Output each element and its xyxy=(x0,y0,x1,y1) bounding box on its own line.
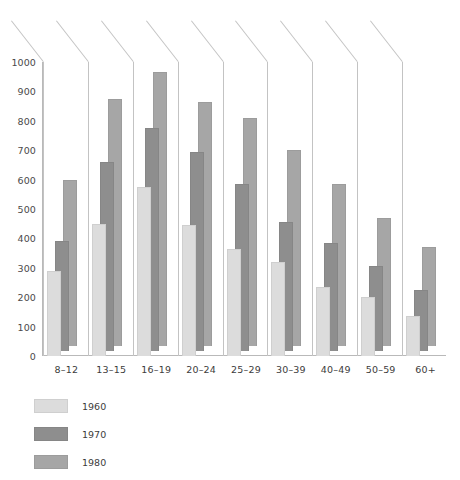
legend-swatch-1960 xyxy=(34,399,68,413)
bar-1960-13–15 xyxy=(92,224,106,356)
plot-area: 01002003004005006007008009001000 8–1213–… xyxy=(42,62,446,356)
x-tick-label: 13–15 xyxy=(96,364,126,375)
legend-swatch-1980 xyxy=(34,455,68,469)
bar-group xyxy=(401,62,446,356)
y-tick-label: 0 xyxy=(30,351,36,362)
bar-1960-30–39 xyxy=(271,262,285,356)
bar-group xyxy=(356,62,401,356)
y-tick-label: 600 xyxy=(18,174,36,185)
x-tick-label: 8–12 xyxy=(55,364,79,375)
bar-1960-16–19 xyxy=(137,187,151,356)
y-tick-label: 800 xyxy=(18,115,36,126)
legend-item[interactable]: 1970 xyxy=(34,423,106,445)
legend-label: 1970 xyxy=(82,429,106,440)
bar-1960-25–29 xyxy=(227,249,241,356)
bar-group xyxy=(177,62,222,356)
legend-item[interactable]: 1980 xyxy=(34,451,106,473)
bar-group xyxy=(132,62,177,356)
bar-group xyxy=(42,62,87,356)
x-tick-label: 16–19 xyxy=(141,364,171,375)
y-tick-label: 100 xyxy=(18,321,36,332)
x-tick-label: 50–59 xyxy=(366,364,396,375)
y-tick-label: 900 xyxy=(18,86,36,97)
x-tick-label: 25–29 xyxy=(231,364,261,375)
bar-1960-50–59 xyxy=(361,297,375,356)
x-tick-label: 60+ xyxy=(415,364,436,375)
bar-1960-8–12 xyxy=(47,271,61,356)
chart-title xyxy=(0,0,460,5)
bar-group xyxy=(266,62,311,356)
y-tick-label: 500 xyxy=(18,204,36,215)
bar-1960-60+ xyxy=(406,316,420,356)
y-tick-label: 1000 xyxy=(11,57,36,68)
legend-swatch-1970 xyxy=(34,427,68,441)
legend-label: 1960 xyxy=(82,401,106,412)
chart-legend: 196019701980 xyxy=(34,395,106,479)
y-tick-label: 200 xyxy=(18,292,36,303)
bar-group xyxy=(311,62,356,356)
bar-group xyxy=(222,62,267,356)
y-tick-label: 400 xyxy=(18,233,36,244)
bar-chart: 01002003004005006007008009001000 8–1213–… xyxy=(0,0,460,480)
bar-1960-40–49 xyxy=(316,287,330,356)
x-tick-label: 40–49 xyxy=(321,364,351,375)
y-tick-label: 700 xyxy=(18,145,36,156)
legend-label: 1980 xyxy=(82,457,106,468)
x-tick-label: 30–39 xyxy=(276,364,306,375)
y-tick-label: 300 xyxy=(18,262,36,273)
x-tick-label: 20–24 xyxy=(186,364,216,375)
bar-1960-20–24 xyxy=(182,225,196,356)
legend-item[interactable]: 1960 xyxy=(34,395,106,417)
bar-group xyxy=(87,62,132,356)
